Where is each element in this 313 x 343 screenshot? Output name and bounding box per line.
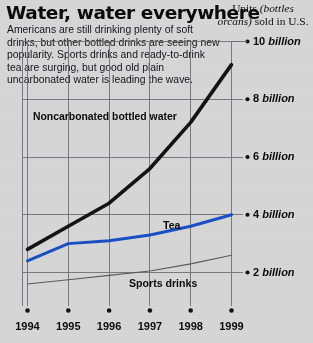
line-chart bbox=[0, 0, 313, 343]
ytick-label: 2 billion bbox=[253, 266, 295, 278]
ytick-label: 6 billion bbox=[253, 150, 295, 162]
ytick-label: 8 billion bbox=[253, 92, 295, 104]
infographic-root: Water, water everywhere Americans are st… bbox=[0, 0, 313, 343]
xtick-dot bbox=[107, 308, 112, 313]
xtick-dot bbox=[66, 308, 71, 313]
xtick-dot bbox=[188, 308, 193, 313]
xtick-label-1995: 1995 bbox=[48, 320, 88, 332]
xtick-label-1999: 1999 bbox=[212, 320, 252, 332]
xtick-label-1997: 1997 bbox=[130, 320, 170, 332]
xtick-dot bbox=[229, 308, 234, 313]
ytick-label: 10 billion bbox=[253, 35, 301, 47]
xtick-dot bbox=[25, 308, 30, 313]
xtick-label-1994: 1994 bbox=[8, 320, 48, 332]
series-label-sports: Sports drinks bbox=[129, 277, 197, 289]
ytick-label: 4 billion bbox=[253, 208, 295, 220]
series-label-water: Noncarbonated bottled water bbox=[33, 111, 177, 122]
ytick-dot bbox=[245, 270, 249, 274]
ytick-dot bbox=[245, 97, 249, 101]
xtick-label-1996: 1996 bbox=[89, 320, 129, 332]
series-line-tea bbox=[28, 215, 232, 261]
ytick-dot bbox=[245, 155, 249, 159]
xtick-dot bbox=[148, 308, 153, 313]
series-label-tea: Tea bbox=[163, 219, 180, 231]
ytick-dot bbox=[245, 213, 249, 217]
xtick-label-1998: 1998 bbox=[171, 320, 211, 332]
